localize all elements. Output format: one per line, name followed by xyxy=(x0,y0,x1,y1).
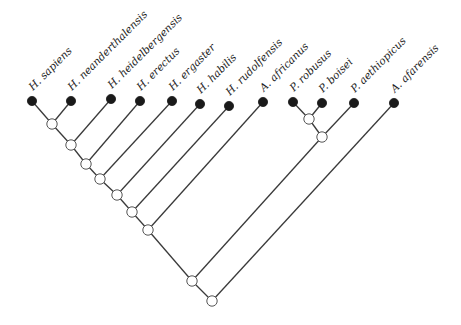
ancestor-node xyxy=(207,296,217,306)
ancestor-node xyxy=(143,225,153,235)
taxon-node xyxy=(27,96,36,105)
ancestor-node xyxy=(95,174,105,184)
taxon-node xyxy=(258,97,267,106)
taxon-node xyxy=(135,96,144,105)
taxon-nodes xyxy=(27,94,398,110)
ancestor-node xyxy=(317,132,327,142)
branch-n8-n7 xyxy=(148,230,192,281)
branch-n3-t3 xyxy=(86,101,140,164)
ancestor-node xyxy=(81,159,91,169)
ancestor-node xyxy=(187,276,197,286)
branch-p2-t10 xyxy=(322,103,354,137)
cladogram: H. sapiensH. neanderthalensisH. heidelbe… xyxy=(0,0,461,325)
taxon-node xyxy=(349,98,358,107)
taxon-node xyxy=(288,97,297,106)
ancestor-node xyxy=(304,114,314,124)
ancestor-node xyxy=(66,140,76,150)
branch-n6-t6 xyxy=(132,106,229,212)
branch-n2-t2 xyxy=(71,99,111,145)
ancestor-nodes xyxy=(47,114,327,306)
taxon-node xyxy=(224,101,233,110)
branch-n7-t7 xyxy=(148,102,263,230)
taxon-node xyxy=(195,99,204,108)
ancestor-node xyxy=(127,207,137,217)
taxon-node xyxy=(66,96,75,105)
taxon-labels: H. sapiensH. neanderthalensisH. heidelbe… xyxy=(25,7,441,98)
taxon-node xyxy=(167,96,176,105)
branches xyxy=(32,99,394,301)
taxon-node xyxy=(317,98,326,107)
ancestor-node xyxy=(47,119,57,129)
taxon-node xyxy=(106,94,115,103)
branch-n4-t4 xyxy=(100,101,172,179)
taxon-node xyxy=(389,98,398,107)
branch-n9-t11 xyxy=(212,103,394,301)
branch-n5-t5 xyxy=(117,104,200,195)
ancestor-node xyxy=(112,190,122,200)
